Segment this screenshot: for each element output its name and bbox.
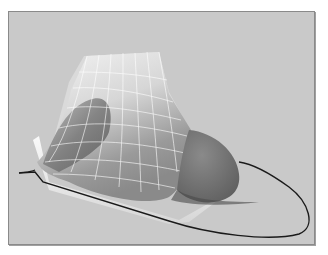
dark-cap: [177, 130, 239, 202]
figure-frame: [8, 11, 315, 245]
figure-canvas: [9, 12, 314, 244]
